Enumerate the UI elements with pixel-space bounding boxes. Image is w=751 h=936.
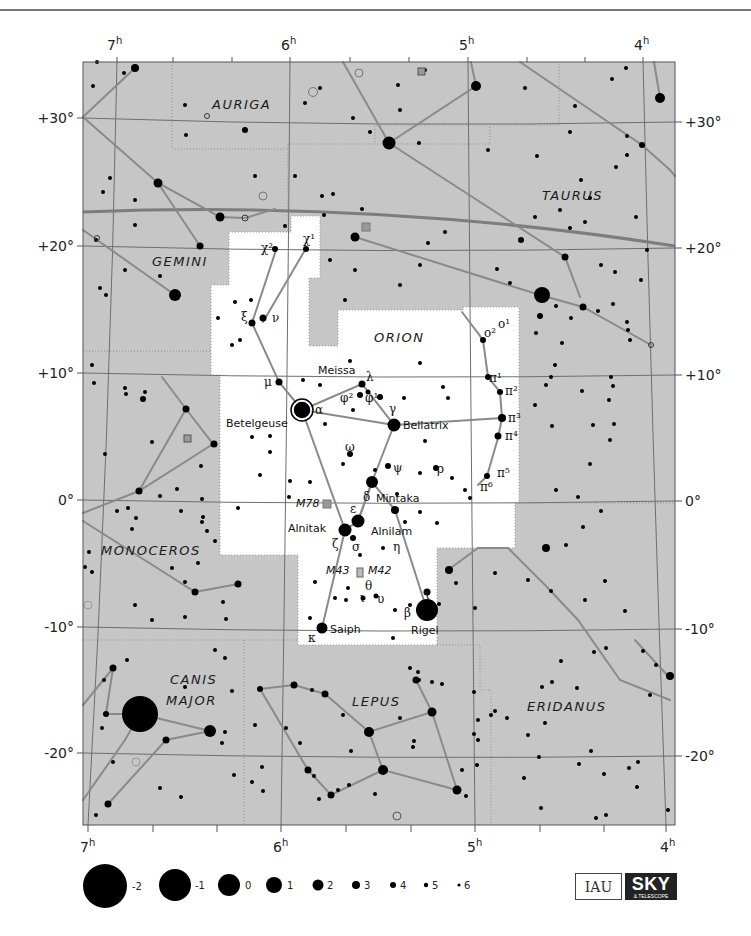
ra-label-5h-top: 5h: [459, 35, 474, 53]
legend-dot-mag-3: [352, 881, 360, 889]
legend-label: 5: [432, 880, 438, 891]
label-m43: M43: [326, 564, 350, 577]
label-lepus: LEPUS: [352, 694, 401, 709]
greek-label: ο²: [484, 326, 496, 340]
cluster-marker: [184, 435, 191, 442]
greek-label: π²: [505, 384, 518, 398]
sky-wordmark: SKY: [632, 875, 671, 893]
telescope-wordmark: & TELESCOPE: [634, 893, 669, 899]
label-taurus: TAURUS: [542, 188, 603, 203]
label-eridanus: ERIDANUS: [527, 699, 606, 714]
greek-label: π⁶: [480, 480, 493, 494]
greek-label: π⁵: [497, 466, 510, 480]
greek-label: κ: [308, 631, 316, 645]
legend-dot-mag-neg2: [83, 864, 127, 908]
label-m78: M78: [296, 497, 320, 510]
greek-label: δ: [363, 490, 370, 504]
dec-label-left: -20°: [44, 745, 74, 761]
ra-label-7h-bottom: 7h: [80, 837, 95, 855]
greek-label: ω: [345, 440, 355, 454]
greek-label: ε: [350, 502, 356, 516]
label-major: MAJOR: [166, 693, 217, 708]
label-rigel: Rigel: [411, 624, 439, 637]
dec-label-right: +30°: [685, 114, 722, 130]
greek-label: β: [404, 606, 411, 620]
legend-dot-mag-2: [313, 880, 324, 891]
iau-logo: IAU: [575, 873, 622, 900]
greek-label: μ: [264, 375, 272, 389]
dec-label-right: +10°: [685, 367, 722, 383]
cluster-marker: [362, 223, 370, 231]
right-dec-labels: +30° +20° +10° 0° -10° -20°: [685, 114, 722, 764]
greek-label: α: [315, 403, 323, 417]
label-alnilam: Alnilam: [371, 525, 412, 538]
legend-dot-mag-neg1: [159, 869, 191, 901]
ra-label-6h-top: 6h: [281, 35, 296, 53]
greek-label: ξ: [241, 310, 248, 324]
greek-label: ν: [272, 311, 279, 325]
dec-label-left: 0°: [58, 492, 74, 508]
magnitude-legend: -2 -1 0 1 2 3 4 5 6: [83, 864, 470, 908]
dec-label-left: +30°: [37, 110, 74, 126]
label-alnitak: Alnitak: [288, 522, 327, 535]
dec-label-right: -10°: [685, 621, 715, 637]
label-gemini: GEMINI: [152, 254, 208, 269]
ra-label-5h-bottom: 5h: [467, 837, 482, 855]
greek-label: ο¹: [498, 317, 510, 331]
greek-label: λ: [366, 370, 374, 384]
dec-label-left: +10°: [37, 365, 74, 381]
legend-dot-mag-5: [424, 883, 428, 887]
legend-label: -1: [195, 880, 205, 891]
legend-label: 3: [364, 880, 370, 891]
label-betelgeuse: Betelgeuse: [226, 417, 288, 430]
bottom-ra-labels: 7h 6h 5h 4h: [80, 837, 675, 855]
greek-label: π³: [508, 411, 521, 425]
greek-label: γ: [389, 402, 396, 416]
legend-label: 6: [464, 880, 470, 891]
legend-label: 0: [245, 880, 251, 891]
top-ra-labels: 7h 6h 5h 4h: [107, 35, 649, 53]
dec-label-right: +20°: [685, 240, 722, 256]
legend-label: 1: [287, 880, 293, 891]
ra-label-7h-top: 7h: [107, 35, 122, 53]
greek-label: υ: [377, 592, 384, 606]
greek-label: χ¹: [303, 232, 315, 246]
iau-sky-telescope-logo: IAU SKY & TELESCOPE: [575, 873, 677, 900]
dec-label-left: -10°: [44, 619, 74, 635]
ra-label-4h-bottom: 4h: [660, 837, 675, 855]
greek-label: π¹: [489, 371, 502, 385]
label-m42: M42: [368, 564, 392, 577]
greek-label: ι: [360, 591, 365, 605]
greek-label: φ¹: [365, 391, 378, 405]
label-auriga: AURIGA: [211, 97, 271, 112]
label-orion: ORION: [374, 330, 425, 345]
m42-marker: [357, 568, 363, 577]
label-monoceros: MONOCEROS: [101, 543, 201, 558]
legend-label: 2: [327, 880, 333, 891]
ra-label-6h-bottom: 6h: [273, 837, 288, 855]
label-saiph: Saiph: [330, 623, 361, 636]
label-canis: CANIS: [170, 672, 217, 687]
greek-label: θ: [365, 579, 372, 593]
label-mintaka: Mintaka: [376, 492, 420, 505]
m78-marker: [323, 500, 331, 508]
legend-label: -2: [132, 881, 142, 892]
greek-label: π⁴: [505, 429, 518, 443]
label-meissa: Meissa: [318, 364, 356, 377]
cluster-marker: [418, 68, 425, 75]
greek-label: ψ: [393, 461, 402, 475]
legend-dot-mag-0: [218, 874, 240, 896]
greek-label: χ²: [261, 241, 273, 255]
ra-label-4h-top: 4h: [634, 35, 649, 53]
dec-label-left: +20°: [37, 238, 74, 254]
greek-label: η: [393, 540, 400, 554]
legend-dot-mag-1: [266, 877, 282, 893]
star-chart: 7h 6h 5h 4h 7h 6h 5h 4h +30° +20° +10° 0…: [0, 0, 751, 936]
legend-dot-mag-6: [457, 883, 460, 886]
greek-label: ρ: [437, 462, 444, 476]
greek-label: σ: [352, 540, 360, 554]
left-dec-labels: +30° +20° +10° 0° -10° -20°: [37, 110, 74, 761]
legend-label: 4: [400, 880, 406, 891]
label-bellatrix: Bellatrix: [403, 419, 449, 432]
greek-label: φ²: [340, 391, 353, 405]
